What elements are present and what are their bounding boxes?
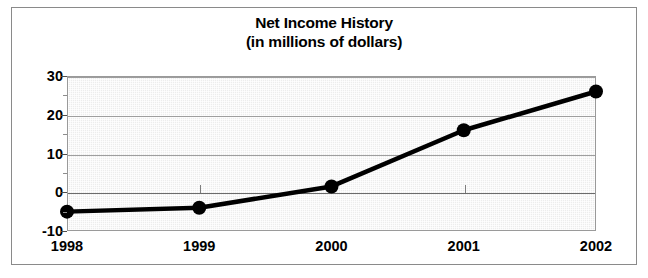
y-minor-tick-15 xyxy=(63,134,67,135)
y-tick-label-20: 20 xyxy=(17,108,63,122)
y-major-tick-20 xyxy=(61,115,67,116)
x-tick-label-1998: 1998 xyxy=(27,238,107,254)
chart-title: Net Income History (in millions of dolla… xyxy=(0,13,648,51)
y-major-tick--10 xyxy=(61,231,67,232)
x-tick-label-2002: 2002 xyxy=(556,238,636,254)
x-tick-1999 xyxy=(200,185,201,193)
x-tick-label-2001: 2001 xyxy=(424,238,504,254)
gridline-10 xyxy=(68,155,595,156)
chart-title-line1: Net Income History xyxy=(255,14,393,31)
x-tick-label-1999: 1999 xyxy=(159,238,239,254)
y-major-tick-10 xyxy=(61,154,67,155)
chart-title-line2: (in millions of dollars) xyxy=(0,32,648,51)
plot-area xyxy=(67,76,596,231)
y-major-tick-30 xyxy=(61,76,67,77)
gridline-0 xyxy=(68,193,595,194)
y-tick-label-0: 0 xyxy=(17,185,63,199)
gridline-20 xyxy=(68,116,595,117)
x-tick-2000 xyxy=(333,185,334,193)
y-axis-labels: 3020100-10 xyxy=(9,0,63,278)
x-tick-label-2000: 2000 xyxy=(292,238,372,254)
chart-screenshot: Net Income History (in millions of dolla… xyxy=(0,0,648,278)
y-tick-label-30: 30 xyxy=(17,69,63,83)
y-tick-label--10: -10 xyxy=(17,224,63,238)
y-minor-tick--5 xyxy=(63,212,67,213)
x-tick-2001 xyxy=(465,185,466,193)
y-minor-tick-5 xyxy=(63,173,67,174)
y-major-tick-0 xyxy=(61,192,67,193)
y-tick-label-10: 10 xyxy=(17,147,63,161)
y-minor-tick-25 xyxy=(63,95,67,96)
gridline-30 xyxy=(68,77,595,78)
